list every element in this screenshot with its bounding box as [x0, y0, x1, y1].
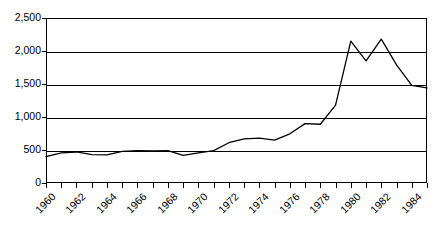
x-axis-tick-mark: [305, 183, 306, 188]
line-chart: 05001,0001,5002,0002,500 196019621964196…: [0, 0, 442, 231]
x-axis-tick-mark: [427, 183, 428, 188]
y-axis-tick-label: 1,000: [0, 111, 41, 122]
x-axis-tick-mark: [46, 183, 47, 188]
y-axis-tick-label: 0: [0, 177, 41, 188]
x-axis-tick-mark: [153, 183, 154, 188]
x-axis-tick-mark: [92, 183, 93, 188]
x-axis-tick-mark: [122, 183, 123, 188]
x-axis-tick-mark: [137, 183, 138, 188]
x-axis-tick-mark: [275, 183, 276, 188]
x-axis-tick-mark: [244, 183, 245, 188]
x-axis-tick-mark: [336, 183, 337, 188]
y-axis-tick-label: 1,500: [0, 78, 41, 89]
x-axis-tick-mark: [76, 183, 77, 188]
x-axis-tick-mark: [214, 183, 215, 188]
y-axis-tick-label: 2,500: [0, 12, 41, 23]
x-axis-tick-mark: [412, 183, 413, 188]
y-axis-tick-label: 500: [0, 144, 41, 155]
x-axis-tick-mark: [183, 183, 184, 188]
x-axis-tick-mark: [351, 183, 352, 188]
x-axis-tick-mark: [290, 183, 291, 188]
x-axis-tick-mark: [259, 183, 260, 188]
x-axis-tick-mark: [397, 183, 398, 188]
y-axis-tick-label: 2,000: [0, 45, 41, 56]
x-axis-tick-mark: [381, 183, 382, 188]
x-axis-tick-mark: [168, 183, 169, 188]
x-axis-tick-mark: [198, 183, 199, 188]
data-series-line: [46, 18, 427, 183]
series-1-path: [46, 39, 427, 156]
x-axis-tick-mark: [229, 183, 230, 188]
x-axis-tick-mark: [320, 183, 321, 188]
x-axis-tick-mark: [61, 183, 62, 188]
x-axis-tick-mark: [366, 183, 367, 188]
x-axis-tick-mark: [107, 183, 108, 188]
